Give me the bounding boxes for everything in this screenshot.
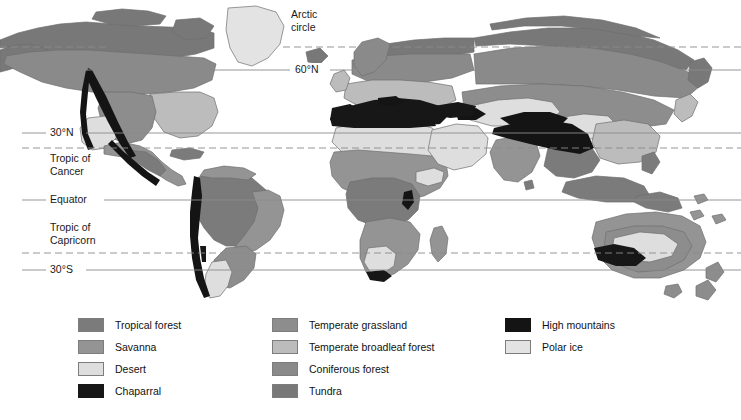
legend-item-tropical-forest: Tropical forest xyxy=(78,314,181,336)
legend: Tropical forest Savanna Desert Chaparral… xyxy=(0,306,741,420)
legend-swatch-chaparral xyxy=(78,384,104,398)
legend-column-2: Temperate grassland Temperate broadleaf … xyxy=(272,314,435,402)
legend-item-temperate-grassland: Temperate grassland xyxy=(272,314,435,336)
legend-item-high-mountains: High mountains xyxy=(505,314,615,336)
legend-label-chaparral: Chaparral xyxy=(115,385,161,397)
map-canvas: Arctic circle 60°N 30°N Tropic of Cancer… xyxy=(0,0,741,305)
legend-item-temperate-broadleaf-forest: Temperate broadleaf forest xyxy=(272,336,435,358)
legend-swatch-temperate-broadleaf-forest xyxy=(272,340,298,354)
legend-swatch-savanna xyxy=(78,340,104,354)
legend-item-tundra: Tundra xyxy=(272,380,435,402)
legend-label-temperate-broadleaf-forest: Temperate broadleaf forest xyxy=(309,341,435,353)
legend-label-tundra: Tundra xyxy=(309,385,342,397)
lat-label-30s: 30°S xyxy=(47,263,76,275)
legend-item-coniferous-forest: Coniferous forest xyxy=(272,358,435,380)
legend-label-coniferous-forest: Coniferous forest xyxy=(309,363,389,375)
legend-label-temperate-grassland: Temperate grassland xyxy=(309,319,407,331)
legend-label-high-mountains: High mountains xyxy=(542,319,615,331)
legend-label-tropical-forest: Tropical forest xyxy=(115,319,181,331)
lat-label-tropic-of-cancer: Tropic of Cancer xyxy=(47,152,93,177)
world-biome-map-figure: Arctic circle 60°N 30°N Tropic of Cancer… xyxy=(0,0,741,420)
lat-label-arctic-circle: Arctic circle xyxy=(288,8,320,33)
legend-swatch-tropical-forest xyxy=(78,318,104,332)
lat-label-60n: 60°N xyxy=(292,63,321,75)
legend-column-3: High mountains Polar ice xyxy=(505,314,615,358)
legend-column-1: Tropical forest Savanna Desert Chaparral xyxy=(78,314,181,402)
lat-label-30n: 30°N xyxy=(47,126,76,138)
legend-swatch-temperate-grassland xyxy=(272,318,298,332)
legend-item-savanna: Savanna xyxy=(78,336,181,358)
legend-label-savanna: Savanna xyxy=(115,341,156,353)
legend-item-desert: Desert xyxy=(78,358,181,380)
lat-label-tropic-of-capricorn: Tropic of Capricorn xyxy=(47,221,99,246)
legend-label-polar-ice: Polar ice xyxy=(542,341,583,353)
legend-swatch-polar-ice xyxy=(505,340,531,354)
legend-item-chaparral: Chaparral xyxy=(78,380,181,402)
legend-label-desert: Desert xyxy=(115,363,146,375)
world-map-svg xyxy=(0,0,741,305)
legend-swatch-coniferous-forest xyxy=(272,362,298,376)
legend-swatch-desert xyxy=(78,362,104,376)
sri-lanka xyxy=(524,180,534,190)
legend-swatch-tundra xyxy=(272,384,298,398)
lat-label-equator: Equator xyxy=(47,193,90,205)
legend-swatch-high-mountains xyxy=(505,318,531,332)
legend-item-polar-ice: Polar ice xyxy=(505,336,615,358)
